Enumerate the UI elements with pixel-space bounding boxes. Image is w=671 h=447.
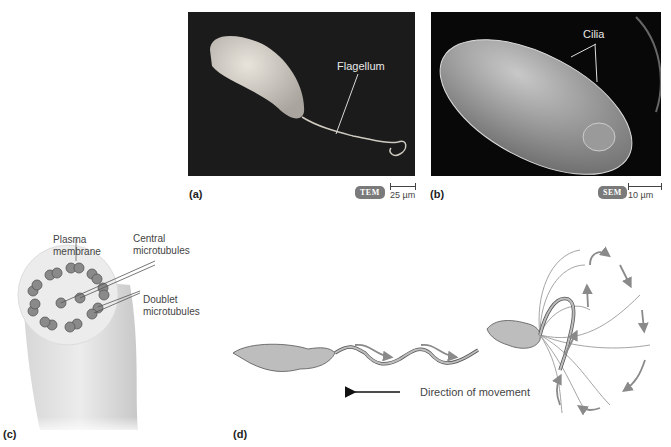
central-microtubules-label: Central microtubules [133,233,190,257]
beat-arrow-2 [620,265,630,285]
panel-c-letter: (c) [3,428,16,440]
scale-bar-text: 10 µm [628,190,662,200]
flagellar-movement-diagram [190,235,670,445]
direction-of-movement-label: Direction of movement [420,386,530,398]
flagellate-cell-body [233,344,335,371]
beat-arrow-3 [642,310,644,330]
scale-bar-text: 25 µm [390,190,416,200]
ciliate-cell-image [431,12,661,176]
panel-b-letter: (b) [430,188,444,200]
beat-arrow-4 [625,360,645,390]
sem-badge: SEM [598,186,627,199]
scale-bar-a: 25 µm [390,186,416,200]
ciliate-cell-body [487,321,540,349]
panel-d-letter: (d) [233,428,247,440]
central-label-line2: microtubules [133,245,190,257]
cilia-micrograph [431,12,661,176]
plasma-label-line1: Plasma [53,234,101,246]
cilia-label: Cilia [583,28,604,40]
flagellate-cell-image [188,12,415,176]
panel-a-letter: (a) [189,188,202,200]
central-label-line1: Central [133,233,190,245]
flagellum-micrograph [188,12,415,176]
plasma-membrane-label: Plasma membrane [53,234,101,258]
flagellum-label: Flagellum [337,60,385,72]
beat-arrow-1 [590,252,608,265]
tem-badge: TEM [355,186,385,199]
beat-arrow-8 [587,287,588,307]
beating-flagellum [540,298,574,370]
scale-bar-b: 10 µm [628,186,662,200]
plasma-label-line2: membrane [53,246,101,258]
scale-bar-line [390,186,416,190]
scale-bar-line [628,186,662,190]
axoneme-cross-section [0,225,200,445]
